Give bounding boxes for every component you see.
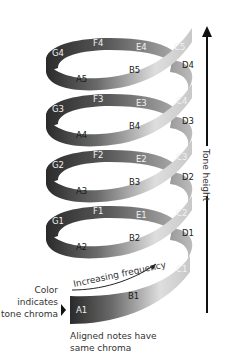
note-label-f3: F3	[93, 94, 103, 104]
note-label-d1: D1	[182, 228, 194, 238]
note-label-a1: A1	[76, 305, 87, 315]
caption-line-3: tone chroma	[1, 309, 58, 319]
tone-height-axis: Tone height	[201, 26, 212, 313]
note-label-e1: E1	[136, 210, 147, 220]
note-label-a3: A3	[76, 186, 87, 196]
coil-2	[46, 140, 192, 208]
arrow-up-icon	[202, 26, 212, 37]
note-label-c1: C1	[176, 264, 187, 274]
caption-line-1: Color	[35, 285, 59, 295]
note-label-g1: G1	[52, 216, 64, 226]
coil-1	[46, 196, 192, 264]
note-label-a5: A5	[76, 74, 87, 84]
note-label-f1: F1	[93, 206, 103, 216]
note-label-g4: G4	[52, 48, 64, 58]
caption-line-2: indicates	[17, 297, 58, 307]
note-label-g2: G2	[52, 160, 64, 170]
note-label-f4: F4	[93, 38, 103, 48]
note-label-b4: B4	[129, 121, 140, 131]
note-label-e3: E3	[136, 98, 147, 108]
note-label-d4: D4	[182, 60, 194, 70]
note-label-b5: B5	[129, 65, 140, 75]
aligned-line-2: same chroma	[70, 343, 131, 353]
coil-3	[46, 84, 192, 152]
note-label-c5: C5	[174, 42, 185, 52]
note-label-c4: C4	[176, 96, 187, 106]
aligned-caption: Aligned notes have same chroma	[70, 331, 157, 353]
coil-4	[46, 28, 192, 96]
pointer-arrow-icon	[61, 304, 66, 316]
note-label-f2: F2	[93, 150, 103, 160]
note-label-g3: G3	[52, 104, 64, 114]
helix-ribbon	[46, 28, 192, 324]
note-label-a4: A4	[76, 130, 87, 140]
note-label-e2: E2	[136, 154, 147, 164]
pitch-helix-diagram: Increasing frequency A1B1C1D1E1F1G1A2B2C…	[0, 0, 228, 360]
note-label-e4: E4	[136, 42, 147, 52]
note-label-c2: C2	[176, 208, 187, 218]
note-label-b1: B1	[128, 291, 139, 301]
note-label-d3: D3	[182, 116, 194, 126]
note-label-d2: D2	[182, 172, 194, 182]
aligned-line-1: Aligned notes have	[70, 331, 157, 341]
color-caption: Color indicates tone chroma	[1, 285, 66, 319]
axis-label: Tone height	[201, 148, 211, 202]
note-label-a2: A2	[76, 242, 87, 252]
note-label-b2: B2	[129, 233, 140, 243]
note-label-c3: C3	[176, 152, 187, 162]
note-label-b3: B3	[129, 177, 140, 187]
